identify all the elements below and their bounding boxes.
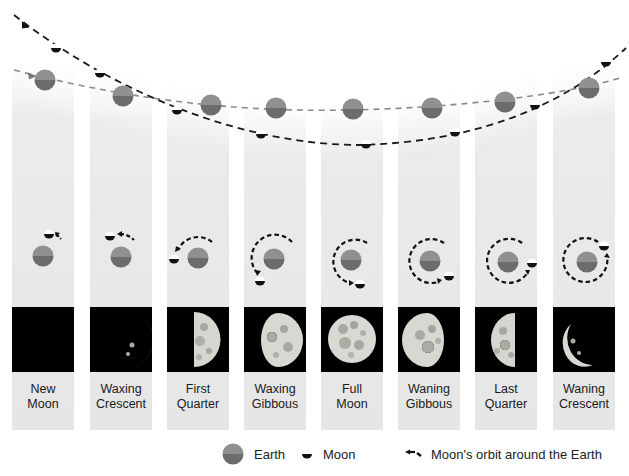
legend-earth-label: Earth — [254, 447, 285, 462]
orbit-diagram-waxing-gibbous — [252, 235, 292, 286]
earth-path — [14, 70, 620, 110]
legend-moon-label: Moon — [323, 447, 356, 462]
orbit-diagram-new-moon — [33, 230, 62, 267]
legend: Earth Moon Moon's orbit around the Earth — [0, 440, 629, 470]
legend-moon: Moon — [301, 440, 356, 468]
legend-earth: Earth — [222, 440, 285, 468]
earth-icon — [222, 443, 244, 465]
orbit-diagram-waxing-crescent — [105, 231, 134, 268]
moon-path — [14, 15, 626, 145]
earth-positions — [35, 70, 600, 120]
orbit-arrow-icon — [404, 448, 422, 460]
moon-icon — [301, 449, 313, 459]
orbit-diagram-last-quarter — [487, 239, 537, 283]
orbit-diagram-waning-gibbous — [409, 239, 454, 284]
orbit-diagram-first-quarter — [169, 237, 212, 268]
orbit-diagram — [0, 0, 629, 476]
legend-orbit: Moon's orbit around the Earth — [404, 440, 602, 468]
orbit-diagram-full-moon — [333, 240, 367, 289]
legend-orbit-label: Moon's orbit around the Earth — [431, 447, 602, 462]
orbit-diagram-waning-crescent — [563, 238, 610, 282]
